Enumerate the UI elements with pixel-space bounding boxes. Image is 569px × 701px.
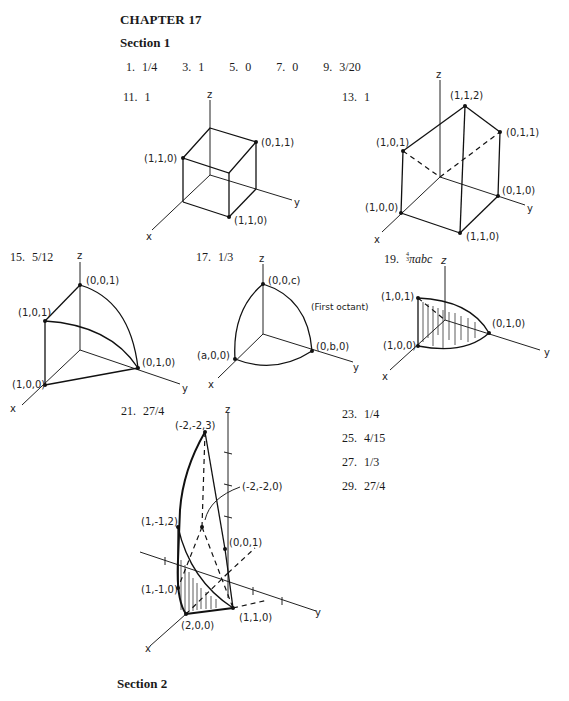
- fig11-label-p2: (0,1,1): [261, 137, 294, 148]
- fig13-label-011: (0,1,1): [506, 127, 539, 138]
- figure-11-cube: z x y (1,1,0) (0,1,1) (1,1,0): [144, 89, 300, 242]
- fig19-hatching: [423, 302, 475, 348]
- fig11-x-label: x: [146, 231, 152, 242]
- fig13-x-label: x: [374, 234, 380, 245]
- figures-canvas: z x y (1,1,0) (0,1,1) (1,1,0) z x y (1,1…: [0, 0, 569, 701]
- fig21-label-110: (1,1,0): [239, 612, 272, 623]
- fig19-label-101: (1,0,1): [381, 291, 414, 302]
- fig13-y-label: y: [527, 203, 533, 214]
- fig21-z-label: z: [225, 404, 230, 415]
- fig21-label-200: (2,0,0): [181, 620, 214, 631]
- fig19-label-100: (1,0,0): [383, 340, 416, 351]
- figure-19-solid: z x y (1,0,1) (1,0,0) (0,1,0): [381, 255, 550, 382]
- fig15-x-label: x: [10, 403, 16, 414]
- fig15-label-001: (0,0,1): [86, 275, 119, 286]
- fig21-label-m2m23: (-2,-2,3): [175, 420, 216, 431]
- fig17-label-a00: (a,0,0): [197, 350, 230, 361]
- fig13-label-010: (0,1,0): [502, 185, 535, 196]
- fig15-y-label: y: [182, 383, 188, 394]
- fig19-z-label: z: [440, 255, 447, 266]
- figure-17-octant: z x y (0,0,c) (0,b,0) (a,0,0) (First oct…: [197, 253, 369, 390]
- fig11-y-label: y: [294, 197, 300, 208]
- fig15-z-label: z: [77, 250, 82, 261]
- fig17-label-0b0: (0,b,0): [316, 341, 349, 352]
- fig21-label-1m12: (1,-1,2): [141, 516, 178, 527]
- fig13-label-112: (1,1,2): [450, 90, 483, 101]
- figure-13-prism: z x y (1,1,2) (0,1,1) (1,0,1) (0,1,0) (1…: [365, 69, 539, 245]
- fig21-label-1m10: (1,-1,0): [141, 584, 178, 595]
- fig17-y-label: y: [353, 362, 359, 373]
- fig13-label-100: (1,0,0): [365, 202, 398, 213]
- fig21-label-m2m20: (-2,-2,0): [242, 481, 283, 492]
- fig15-label-100: (1,0,0): [12, 379, 45, 390]
- fig17-label-00c: (0,0,c): [268, 275, 300, 286]
- fig13-label-101: (1,0,1): [376, 137, 409, 148]
- fig17-note-first-octant: (First octant): [311, 302, 369, 312]
- figure-15-solid: z x y (0,0,1) (1,0,1) (0,1,0) (1,0,0): [10, 250, 188, 414]
- fig21-label-001: (0,0,1): [229, 537, 262, 548]
- fig15-label-101: (1,0,1): [18, 307, 51, 318]
- fig13-label-110: (1,1,0): [466, 231, 499, 242]
- fig11-label-p1: (1,1,0): [144, 153, 177, 164]
- fig15-label-010: (0,1,0): [142, 357, 175, 368]
- fig19-y-label: y: [544, 347, 550, 358]
- fig17-z-label: z: [259, 253, 264, 264]
- fig11-label-p3: (1,1,0): [234, 215, 267, 226]
- fig17-x-label: x: [208, 379, 214, 390]
- figure-21-solid: z x y (-2,-2,3) (-2,-2,0) (1,-1,2) (0,0,…: [140, 404, 321, 654]
- fig13-z-label: z: [436, 69, 441, 80]
- fig19-x-label: x: [382, 371, 388, 382]
- fig19-label-010: (0,1,0): [492, 318, 525, 329]
- fig21-x-label: x: [145, 643, 151, 654]
- fig11-z-label: z: [207, 89, 212, 100]
- fig21-y-label: y: [315, 607, 321, 618]
